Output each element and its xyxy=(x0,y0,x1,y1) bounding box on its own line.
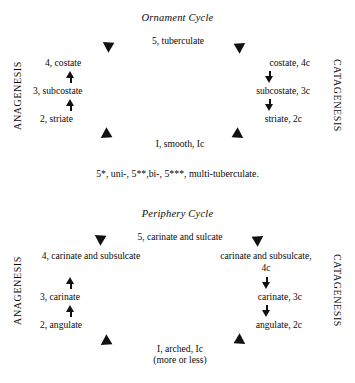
ornament-top-node: 5, tuberculate xyxy=(118,35,238,47)
arrow-up-icon xyxy=(66,71,75,83)
arrow-up-icon xyxy=(66,277,75,289)
ornament-right-stage-4c: costate, 4c xyxy=(220,57,310,69)
periphery-left-stage-2: 2, angulate xyxy=(40,319,140,331)
arrowhead-icon xyxy=(103,37,117,52)
periphery-left-stage-4: 4, carinate and subsulcate xyxy=(40,250,142,262)
arrow-up-icon xyxy=(66,305,75,317)
periphery-right-stage-3c: carinate, 3c xyxy=(214,291,302,303)
ornament-cycle-title: Ornament Cycle xyxy=(0,12,355,23)
periphery-top-node: 5, carinate and sulcate xyxy=(95,231,265,243)
ornament-catagenesis-label: CATAGENESIS xyxy=(332,54,343,138)
ornament-left-stage-2: 2, striate xyxy=(40,113,140,125)
periphery-anagenesis-label: ANAGENESIS xyxy=(12,252,23,330)
periphery-right-stage-2c: angulate, 2c xyxy=(214,319,302,331)
periphery-left-stage-3: 3, carinate xyxy=(40,291,140,303)
periphery-cycle-title: Periphery Cycle xyxy=(0,208,355,219)
ornament-footnote: 5*, uni-, 5**,bi-, 5***, multi-tubercula… xyxy=(0,168,355,179)
ornament-bottom-node: I, smooth, Ic xyxy=(125,138,235,150)
arrow-down-icon xyxy=(262,305,271,317)
ornament-left-stage-4: 4, costate xyxy=(45,57,145,69)
arrowhead-icon xyxy=(101,334,115,349)
arrow-down-icon xyxy=(265,99,274,111)
periphery-catagenesis-label: CATAGENESIS xyxy=(332,249,343,333)
periphery-cycle-diagram: Periphery Cycle ANAGENESIS CATAGENESIS 5… xyxy=(0,195,355,383)
ornament-cycle-diagram: Ornament Cycle ANAGENESIS CATAGENESIS 5,… xyxy=(0,0,355,195)
arrow-up-icon xyxy=(66,99,75,111)
arrow-down-icon xyxy=(265,71,274,83)
periphery-bottom-node: I, arched, Ic xyxy=(125,343,235,355)
ornament-right-stage-3c: subcostate, 3c xyxy=(210,85,310,97)
arrow-down-icon xyxy=(262,277,271,289)
ornament-left-stage-3: 3, subcostate xyxy=(33,85,148,97)
ornament-anagenesis-label: ANAGENESIS xyxy=(12,57,23,135)
ornament-right-stage-2c: striate, 2c xyxy=(218,113,302,125)
periphery-bottom-node-sub: (more or less) xyxy=(125,354,235,366)
arrowhead-icon xyxy=(101,127,115,142)
periphery-right-stage-4c: carinate and subsulcate, 4c xyxy=(218,250,314,273)
